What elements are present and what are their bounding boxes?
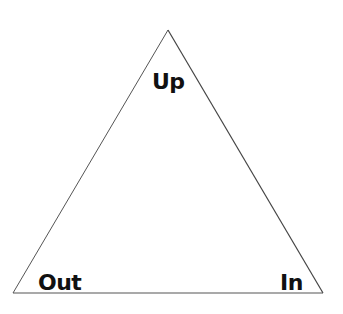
left-edge <box>13 30 168 293</box>
triangle-shape <box>0 0 343 314</box>
triangle-diagram: Up Out In <box>0 0 343 314</box>
label-up: Up <box>152 71 185 93</box>
right-edge <box>168 30 323 293</box>
label-out: Out <box>38 272 81 294</box>
label-in: In <box>280 272 303 294</box>
